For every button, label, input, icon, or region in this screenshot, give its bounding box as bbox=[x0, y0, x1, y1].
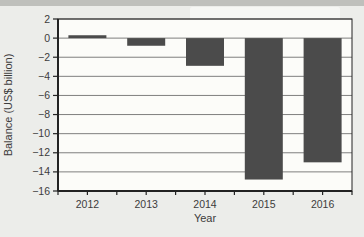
y-tick-label: −10 bbox=[32, 127, 50, 139]
y-tick-label: 2 bbox=[44, 13, 50, 25]
x-axis-label: Year bbox=[194, 212, 217, 224]
bar-2015 bbox=[245, 38, 283, 179]
x-tick-label: 2016 bbox=[311, 198, 335, 210]
page-background: −16−14−12−10−8−6−4−202201220132014201520… bbox=[0, 0, 364, 237]
y-tick-label: −14 bbox=[32, 165, 50, 177]
y-tick-label: −4 bbox=[38, 70, 50, 82]
x-tick-label: 2012 bbox=[76, 198, 100, 210]
x-tick-label: 2015 bbox=[252, 198, 276, 210]
balance-bar-chart: −16−14−12−10−8−6−4−202201220132014201520… bbox=[0, 0, 364, 237]
bar-2016 bbox=[304, 38, 342, 162]
bar-2013 bbox=[127, 38, 165, 46]
y-tick-label: 0 bbox=[44, 32, 50, 44]
x-tick-label: 2013 bbox=[135, 198, 159, 210]
y-axis-label: Balance (US$ billion) bbox=[2, 54, 14, 157]
bar-2012 bbox=[68, 35, 106, 38]
y-tick-label: −8 bbox=[38, 108, 50, 120]
y-tick-label: −12 bbox=[32, 146, 50, 158]
bar-2014 bbox=[186, 38, 224, 66]
y-tick-label: −6 bbox=[38, 89, 50, 101]
x-tick-label: 2014 bbox=[193, 198, 217, 210]
y-tick-label: −2 bbox=[38, 51, 50, 63]
y-tick-label: −16 bbox=[32, 185, 50, 197]
